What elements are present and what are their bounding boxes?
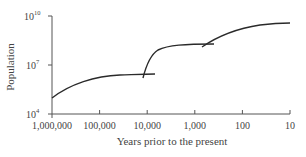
y-tick-label-1e4: 104 <box>26 107 40 120</box>
x-tick-label: 100,000 <box>83 120 116 131</box>
curve-1 <box>52 74 155 98</box>
y-tick-label-1e7: 107 <box>26 58 40 71</box>
population-chart: 1010 107 104 Population 1,000,000 100,00… <box>0 0 306 157</box>
x-tick-label: 1,000 <box>184 120 207 131</box>
curves <box>52 23 290 98</box>
axes <box>48 16 290 118</box>
x-tick-label: 100 <box>235 120 250 131</box>
x-tick-labels: 1,000,000 100,000 10,000 1,000 100 10 <box>32 120 295 131</box>
x-tick-label: 10 <box>285 120 295 131</box>
y-tick-labels: 1010 107 104 <box>24 9 41 120</box>
x-axis-title: Years prior to the present <box>117 135 228 147</box>
y-axis-title: Population <box>4 43 16 91</box>
x-tick-label: 10,000 <box>133 120 161 131</box>
curve-2 <box>143 44 214 78</box>
y-tick-label-1e10: 1010 <box>24 9 41 22</box>
curve-3 <box>202 23 290 47</box>
x-tick-label: 1,000,000 <box>32 120 72 131</box>
